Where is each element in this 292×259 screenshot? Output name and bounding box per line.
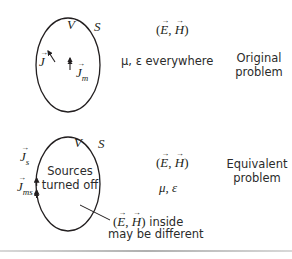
surface-electric-current-label: Js [20, 150, 29, 167]
caption-original: Original problem [229, 51, 289, 80]
caption-equivalent: Equivalent problem [225, 157, 289, 186]
region-label-top: V [67, 18, 75, 31]
magnetic-current-label: Jm [76, 66, 88, 83]
inside-field-note-line2: may be different [108, 229, 204, 241]
surface-label-top: S [94, 20, 101, 33]
surface-magnetic-current-label: Jms [17, 180, 33, 197]
field-pair-bottom: (E, H) [156, 156, 189, 169]
field-pair-top: (E, H) [156, 23, 189, 36]
region-label-bottom: V [74, 136, 82, 149]
surface-label-bottom: S [98, 137, 105, 150]
medium-text-bottom: μ, ε [159, 181, 177, 194]
medium-text-top: μ, ε everywhere [121, 56, 213, 68]
volume-boundary-top [36, 18, 100, 112]
electric-current-arrow [48, 51, 55, 62]
sources-off-label: Sources turned off [40, 164, 100, 193]
bottom-divider [0, 250, 292, 252]
leader-line [80, 205, 110, 220]
electric-current-label: J [39, 55, 45, 68]
